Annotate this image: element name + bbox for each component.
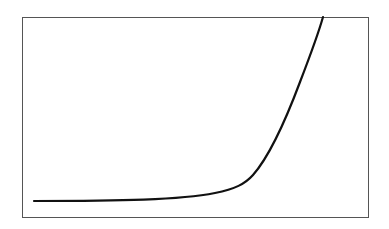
exponential-chart xyxy=(0,0,389,229)
plot-frame xyxy=(23,18,369,218)
